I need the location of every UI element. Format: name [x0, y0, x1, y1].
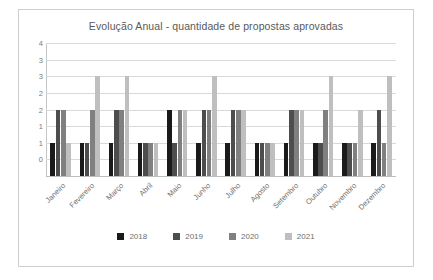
bar [167, 110, 172, 177]
legend-item[interactable]: 2019 [173, 232, 203, 241]
legend-swatch-icon [229, 233, 236, 240]
bar-group [134, 43, 163, 176]
bar [109, 143, 114, 176]
bar-group [46, 43, 75, 176]
bar-group [192, 43, 221, 176]
y-axis-tick-label: 1 [21, 122, 43, 131]
legend-item[interactable]: 2020 [229, 232, 259, 241]
bar [61, 110, 66, 177]
bar [207, 110, 212, 177]
bar [196, 143, 201, 176]
bar-group [309, 43, 338, 176]
bar [183, 110, 188, 177]
x-axis-tick-label: Outubro [304, 181, 330, 207]
bar-series-layer [46, 43, 396, 176]
bar [382, 143, 387, 176]
bar-group [75, 43, 104, 176]
y-axis-tick-label: 3 [21, 55, 43, 64]
y-axis-tick-label: 1 [21, 138, 43, 147]
bar [236, 110, 241, 177]
bar [377, 110, 382, 177]
bar [289, 110, 294, 177]
bar [80, 143, 85, 176]
y-axis-tick-label: 0 [21, 155, 43, 164]
plot-area [46, 43, 396, 176]
bar [231, 110, 236, 177]
bar-group [367, 43, 396, 176]
bar-group [279, 43, 308, 176]
bar-group [104, 43, 133, 176]
legend-item[interactable]: 2018 [117, 232, 147, 241]
bar [95, 76, 100, 176]
bar [202, 110, 207, 177]
bar [66, 143, 71, 176]
legend-label: 2020 [241, 232, 259, 241]
x-axis-label-cell: Abril [134, 178, 163, 222]
bar [125, 76, 130, 176]
x-axis-tick-label: Março [104, 181, 125, 202]
x-axis-tick-label: Junho [192, 181, 213, 202]
bar [138, 143, 143, 176]
bar-group [163, 43, 192, 176]
legend-label: 2018 [129, 232, 147, 241]
bar [178, 110, 183, 177]
bar [371, 143, 376, 176]
bar [90, 110, 95, 177]
bar [294, 110, 299, 177]
chart-title: Evolução Anual - quantidade de propostas… [19, 20, 413, 32]
bar [119, 110, 124, 177]
x-axis-tick-label: Janeiro [43, 181, 67, 205]
bar [318, 143, 323, 176]
x-axis-label-cell: Junho [192, 178, 221, 222]
bar [114, 110, 119, 177]
bar [300, 110, 305, 177]
bar [313, 143, 318, 176]
legend-swatch-icon [285, 233, 292, 240]
bar [255, 143, 260, 176]
legend-swatch-icon [117, 233, 124, 240]
legend-label: 2021 [297, 232, 315, 241]
x-axis-tick-label: Agosto [248, 181, 271, 204]
bar [329, 76, 334, 176]
bar [56, 110, 61, 177]
bar [270, 143, 275, 176]
x-axis-category-labels: JaneiroFevereiroMarçoAbrilMaioJunhoJulho… [46, 178, 396, 222]
legend-item[interactable]: 2021 [285, 232, 315, 241]
y-axis-tick-label: 2 [21, 88, 43, 97]
bar [353, 143, 358, 176]
x-axis-label-cell: Fevereiro [75, 178, 104, 222]
bar-group [338, 43, 367, 176]
bar-group [250, 43, 279, 176]
gridline [46, 176, 396, 177]
bar [342, 143, 347, 176]
chart-legend: 2018201920202021 [19, 232, 413, 241]
bar [225, 143, 230, 176]
bar [148, 143, 153, 176]
y-axis-tick-label: 2 [21, 105, 43, 114]
bar [358, 110, 363, 177]
bar [172, 143, 177, 176]
bar [260, 143, 265, 176]
bar [347, 143, 352, 176]
bar [50, 143, 55, 176]
bar [387, 76, 392, 176]
x-axis-label-cell: Julho [221, 178, 250, 222]
x-axis-tick-label: Maio [166, 181, 184, 199]
bar [212, 76, 217, 176]
x-axis-label-cell: Maio [163, 178, 192, 222]
bar-group [221, 43, 250, 176]
x-axis-tick-label: Julho [223, 181, 242, 200]
legend-swatch-icon [173, 233, 180, 240]
bar [154, 143, 159, 176]
y-axis-tick-labels: 43322110 [19, 43, 43, 177]
bar [323, 110, 328, 177]
bar [284, 143, 289, 176]
legend-label: 2019 [185, 232, 203, 241]
x-axis-tick-label: Abril [137, 181, 154, 198]
y-axis-tick-label: 3 [21, 72, 43, 81]
bar [143, 143, 148, 176]
bar [85, 143, 90, 176]
y-axis-tick-label: 4 [21, 39, 43, 48]
x-axis-label-cell: Dezembro [367, 178, 396, 222]
x-axis-label-cell: Março [104, 178, 133, 222]
